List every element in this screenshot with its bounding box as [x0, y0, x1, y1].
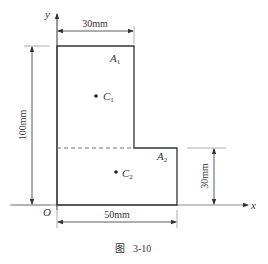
origin-label: O — [43, 206, 51, 218]
diagram-canvas: y x O 30mm 100mm 30mm 50mm A1 C1 A2 C2 图… — [0, 0, 268, 264]
dim-total-height-label: 100mm — [17, 110, 28, 141]
centroid-label-c2: C2 — [122, 167, 133, 181]
area-label-a1: A1 — [109, 52, 121, 66]
l-shape-outline — [57, 46, 177, 205]
dim-bottom-height-label: 30mm — [199, 163, 210, 189]
x-axis-label: x — [250, 199, 256, 211]
y-axis-label: y — [44, 8, 50, 20]
dim-bottom-width-label: 50mm — [104, 209, 130, 220]
centroid-label-c1: C1 — [103, 90, 114, 104]
area-label-a2: A2 — [156, 150, 168, 164]
centroid-point-c1 — [94, 94, 98, 98]
centroid-point-c2 — [114, 170, 118, 174]
figure-caption: 图3-10 — [115, 243, 151, 254]
dim-top-width-label: 30mm — [82, 18, 108, 29]
